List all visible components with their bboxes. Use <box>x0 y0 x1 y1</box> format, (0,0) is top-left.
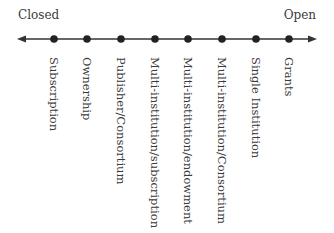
point-label-single-institution: Single Institution <box>250 57 262 158</box>
point-label-multi-institution-endowment: Multi-institution/endowment <box>182 57 194 224</box>
point-label-subscription: Subscription <box>48 57 60 131</box>
right-arrowhead-icon <box>308 36 317 43</box>
axis-point-dot-icon <box>252 35 260 43</box>
point-label-grants: Grants <box>283 57 295 96</box>
axis-point-dot-icon <box>285 35 293 43</box>
axis-point-dot-icon <box>218 35 226 43</box>
point-label-publisher-consortium: Publisher/Consortium <box>115 57 127 184</box>
axis-point-dot-icon <box>151 35 159 43</box>
axis-point-dot-icon <box>184 35 192 43</box>
point-label-multi-institution-consortium: Multi-institution/Consortium <box>216 57 228 224</box>
point-label-multi-institution-subscription: Multi-institution/subscription <box>149 57 161 228</box>
left-arrowhead-icon <box>17 36 26 43</box>
point-label-ownership: Ownership <box>81 57 93 120</box>
axis-point-dot-icon <box>83 35 91 43</box>
axis-point-dot-icon <box>50 35 58 43</box>
axis-point-dot-icon <box>117 35 125 43</box>
